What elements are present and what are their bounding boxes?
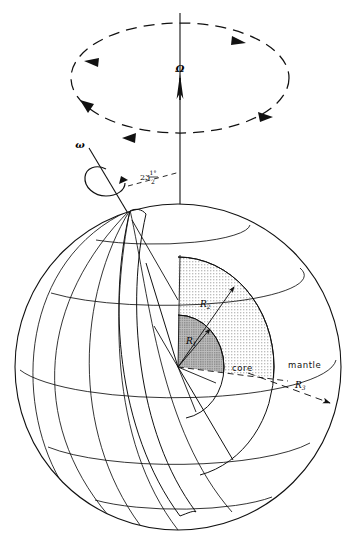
tilt-angle-numerator: 1° [150,169,157,176]
diagram-canvas: Ω ω 23 1° 2 [0,0,363,535]
tilt-angle-group: 23 1° 2 [128,169,180,186]
precession-axis-label: Ω [175,63,185,74]
rotation-loop-icon [85,167,128,196]
mantle-label: mantle [288,360,321,370]
core-label: core [232,363,253,373]
precession-arrowhead-ne [231,36,246,45]
precession-arrowhead-sw [122,133,136,143]
earth-structure-figure: Ω ω 23 1° 2 [0,0,363,535]
tilt-angle-denominator: 2 [151,178,155,185]
spin-axis-label: ω [75,139,85,150]
precession-arrowhead-se [258,112,273,122]
precession-arrowhead-nw [84,58,99,67]
spin-axis-group: ω [75,139,132,220]
